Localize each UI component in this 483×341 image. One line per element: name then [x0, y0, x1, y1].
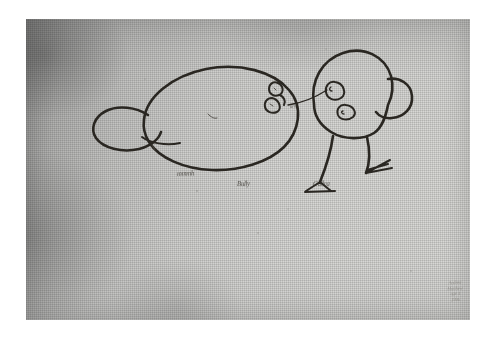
right-creature-lower-eye-pupil — [342, 111, 344, 114]
left-creature-face-detail — [265, 82, 285, 112]
drawing-strokes — [26, 19, 470, 320]
left-creature-flipper — [93, 108, 161, 151]
right-creature-upper-eye-pupil — [330, 87, 332, 91]
right-creature-upper-eye — [326, 82, 344, 100]
right-creature-left-leg — [320, 136, 333, 182]
right-creature-figure — [288, 51, 412, 192]
left-creature-beak-line — [280, 95, 285, 105]
pencil-drawing-layer — [26, 19, 470, 320]
right-creature-right-leg — [366, 137, 369, 173]
left-creature-inner-mark — [208, 114, 217, 118]
right-creature-left-foot — [305, 182, 335, 192]
right-creature-lower-eye — [337, 105, 354, 120]
right-creature-head-outline — [313, 51, 392, 138]
left-creature-figure — [93, 67, 298, 170]
photograph-of-drawing: mmmh Bully Gallea arm Andrea Matthew age… — [0, 0, 483, 341]
left-creature-eye-dot-lower — [270, 104, 273, 106]
left-creature-eye-dot-upper — [274, 88, 276, 90]
paper-specks — [144, 48, 411, 271]
right-creature-side-lobe — [376, 79, 412, 119]
paper-sheet: mmmh Bully Gallea arm Andrea Matthew age… — [26, 19, 470, 320]
left-creature-upper-eye — [269, 82, 283, 95]
